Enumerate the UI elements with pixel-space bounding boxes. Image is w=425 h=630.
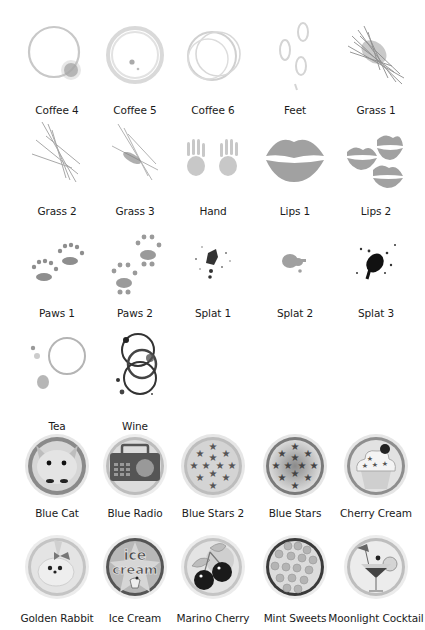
cocktail-badge-icon <box>343 534 409 600</box>
coffee-stain-icon <box>27 22 87 86</box>
svg-text:★: ★ <box>382 460 388 468</box>
item-splat-1[interactable]: Splat 1 <box>172 225 254 325</box>
svg-text:★: ★ <box>222 472 231 483</box>
grass-icon <box>30 120 84 186</box>
item-label: Grass 1 <box>325 104 425 116</box>
item-hand[interactable]: Hand <box>172 120 254 220</box>
svg-text:★: ★ <box>291 441 300 452</box>
lips-icon <box>347 132 405 188</box>
item-grass-1[interactable]: Grass 1 <box>335 0 417 120</box>
svg-text:★: ★ <box>372 461 378 469</box>
item-lips-2[interactable]: Lips 2 <box>335 120 417 220</box>
paw-prints-icon <box>104 231 166 297</box>
item-wine[interactable]: Wine <box>94 330 176 430</box>
stars-badge-icon: ★★★ ★★★ ★★★ ★★★ <box>262 433 328 499</box>
grass-icon <box>344 22 408 90</box>
svg-text:★: ★ <box>209 468 218 479</box>
item-label: Lips 2 <box>325 205 425 217</box>
tea-stain-icon <box>21 334 93 394</box>
item-marino-cherry[interactable]: Marino Cherry <box>172 530 254 630</box>
item-blue-stars[interactable]: ★★★ ★★★ ★★★ ★★★ Blue Stars <box>254 430 336 530</box>
sweets-badge-icon <box>262 534 328 600</box>
radio-badge-icon <box>102 433 168 499</box>
cupcake-badge-icon: ★★★★ <box>343 433 409 499</box>
svg-text:★: ★ <box>209 480 218 491</box>
item-cherry-cream[interactable]: ★★★★ Cherry Cream <box>335 430 417 530</box>
ice-cream-badge-icon: ice cream <box>102 534 168 600</box>
item-label: Cherry Cream <box>325 507 425 519</box>
svg-text:ice: ice <box>124 547 147 563</box>
svg-text:★: ★ <box>228 460 237 471</box>
svg-text:★: ★ <box>190 460 199 471</box>
cherry-badge-icon <box>180 534 246 600</box>
splat-icon <box>341 229 411 293</box>
svg-text:★: ★ <box>304 448 313 459</box>
svg-text:★: ★ <box>272 460 281 471</box>
lips-icon <box>264 132 326 184</box>
svg-text:★: ★ <box>304 472 313 483</box>
coffee-stain-icon <box>178 26 248 86</box>
svg-text:cream: cream <box>112 562 157 577</box>
item-blue-stars-2[interactable]: ★★★ ★★★ ★★★ ★★★ Blue Stars 2 <box>172 430 254 530</box>
svg-text:★: ★ <box>291 468 300 479</box>
svg-text:★: ★ <box>310 460 319 471</box>
svg-text:★: ★ <box>291 480 300 491</box>
svg-text:★: ★ <box>196 472 205 483</box>
handprints-icon <box>180 136 246 180</box>
svg-text:★: ★ <box>362 462 368 470</box>
coffee-stain-icon <box>103 25 167 89</box>
rabbit-badge-icon <box>24 534 90 600</box>
item-feet[interactable]: Feet <box>254 0 336 120</box>
footprints-icon <box>275 18 315 94</box>
splat-icon <box>264 231 326 291</box>
item-lips-1[interactable]: Lips 1 <box>254 120 336 220</box>
svg-text:★: ★ <box>209 441 218 452</box>
svg-text:★: ★ <box>278 448 287 459</box>
item-splat-2[interactable]: Splat 2 <box>254 225 336 325</box>
svg-text:★: ★ <box>196 448 205 459</box>
wine-stain-icon <box>104 332 166 404</box>
item-splat-3[interactable]: Splat 3 <box>335 225 417 325</box>
grass-icon <box>108 120 162 186</box>
item-coffee-5[interactable]: Coffee 5 <box>94 0 176 120</box>
item-coffee-4[interactable]: Coffee 4 <box>16 0 98 120</box>
item-coffee-6[interactable]: Coffee 6 <box>172 0 254 120</box>
stars-badge-icon: ★★★ ★★★ ★★★ ★★★ <box>180 433 246 499</box>
item-mint-sweets[interactable]: Mint Sweets <box>254 530 336 630</box>
item-label: Splat 3 <box>325 307 425 319</box>
svg-text:★: ★ <box>222 448 231 459</box>
cat-badge-icon <box>24 433 90 499</box>
item-tea[interactable]: Tea <box>16 330 98 430</box>
paw-prints-icon <box>24 241 90 289</box>
item-moonlight-cocktail[interactable]: Moonlight Cocktail <box>335 530 417 630</box>
svg-text:★: ★ <box>278 472 287 483</box>
item-label: Moonlight Cocktail <box>325 612 425 624</box>
splat-icon <box>182 231 244 291</box>
